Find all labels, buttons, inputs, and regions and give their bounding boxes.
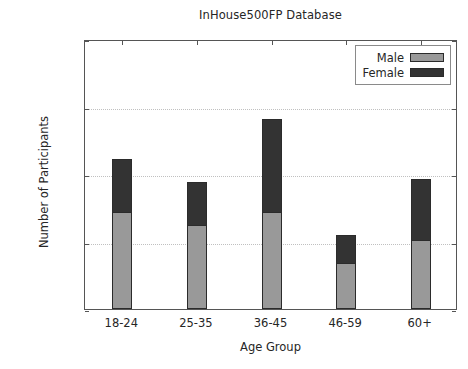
bar-segment-female	[187, 182, 207, 225]
x-axis-tick-label: 18-24	[86, 316, 156, 330]
chart-legend: Male Female	[355, 45, 451, 85]
legend-label-male: Male	[377, 51, 404, 65]
legend-swatch-male	[410, 53, 444, 62]
y-axis-tick	[85, 311, 89, 312]
x-axis-label: Age Group	[84, 340, 457, 354]
bar-segment-male	[336, 263, 356, 309]
x-axis-tick	[346, 41, 347, 45]
gridline	[85, 109, 456, 110]
bar-segment-female	[112, 159, 132, 212]
bar-stack	[336, 235, 356, 309]
x-axis-tick-label: 25-35	[161, 316, 231, 330]
legend-item-male: Male	[362, 50, 444, 65]
bar-segment-male	[411, 240, 431, 309]
y-axis-tick	[452, 41, 456, 42]
y-axis-tick	[452, 244, 456, 245]
y-axis-tick	[452, 311, 456, 312]
bar-segment-female	[411, 179, 431, 240]
chart-figure: InHouse500FP Database Number of Particip…	[0, 0, 468, 369]
y-axis-tick	[85, 176, 89, 177]
x-axis-tick-label: 36-45	[236, 316, 306, 330]
bar-stack	[187, 182, 207, 309]
y-axis-tick	[452, 109, 456, 110]
bar-stack	[411, 179, 431, 309]
y-axis-tick	[85, 244, 89, 245]
bar-segment-male	[112, 212, 132, 309]
x-axis-tick	[197, 41, 198, 45]
bar-segment-female	[336, 235, 356, 263]
y-axis-tick	[85, 41, 89, 42]
x-axis-tick-label: 60+	[385, 316, 455, 330]
legend-item-female: Female	[362, 65, 444, 80]
y-axis-tick	[85, 109, 89, 110]
legend-label-female: Female	[362, 66, 404, 80]
bar-segment-female	[262, 119, 282, 212]
chart-title: InHouse500FP Database	[84, 8, 457, 22]
legend-swatch-female	[410, 68, 444, 77]
bar-segment-male	[262, 212, 282, 309]
plot-area: Male Female	[84, 40, 457, 310]
y-axis-label: Number of Participants	[37, 62, 51, 302]
bar-segment-male	[187, 225, 207, 309]
x-axis-tick	[122, 41, 123, 45]
bar-stack	[262, 119, 282, 309]
x-axis-tick-label: 46-59	[310, 316, 380, 330]
y-axis-tick	[452, 176, 456, 177]
x-axis-tick	[272, 41, 273, 45]
bar-stack	[112, 159, 132, 309]
